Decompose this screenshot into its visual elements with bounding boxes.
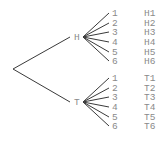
- outcome-label: H6: [144, 56, 156, 67]
- leaf-label: 6: [112, 121, 118, 132]
- branch-label-t: T: [74, 97, 80, 108]
- edge-h-6: [83, 37, 109, 61]
- tree-labels: H1H12H23H34H45H56H6T1T12T23T34T45T56T6: [74, 8, 156, 132]
- branch-label-h: H: [74, 32, 80, 43]
- probability-tree-diagram: H1H12H23H34H45H56H6T1T12T23T34T45T56T6: [0, 0, 168, 143]
- leaf-label: 6: [112, 56, 118, 67]
- edge-root-t: [13, 69, 70, 102]
- outcome-label: T6: [144, 121, 156, 132]
- edge-t-6: [83, 102, 109, 126]
- tree-edges: [13, 13, 109, 126]
- edge-root-h: [13, 37, 70, 69]
